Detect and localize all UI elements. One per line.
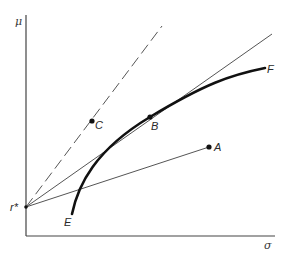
efficient-frontier-curve	[72, 68, 265, 214]
y-axis-label: μ	[15, 15, 22, 28]
label-c: C	[95, 119, 103, 131]
point-a	[206, 144, 211, 149]
label-a: A	[213, 141, 221, 153]
x-axis-label: σ	[264, 239, 272, 252]
diagram-canvas: μ σ r* A B C E F	[0, 0, 287, 257]
label-f: F	[267, 63, 275, 75]
point-b	[147, 114, 152, 119]
tangent-line-through-b	[26, 34, 272, 207]
line-to-a	[26, 147, 209, 207]
r-star-label: r*	[10, 201, 19, 213]
point-c	[89, 118, 94, 123]
dashed-line-through-c	[26, 26, 162, 207]
label-e: E	[64, 216, 72, 228]
label-b: B	[151, 120, 158, 132]
point-r-star	[24, 205, 28, 209]
